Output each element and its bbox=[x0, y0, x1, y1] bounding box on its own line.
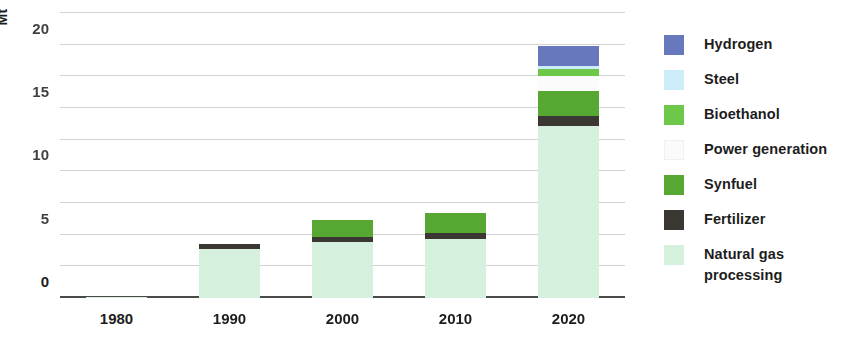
bar-segment-natural-gas-processing bbox=[86, 297, 147, 298]
legend-swatch-icon bbox=[664, 210, 684, 230]
bar-segment-power-generation bbox=[538, 76, 599, 91]
legend-label: Bioethanol bbox=[704, 104, 780, 125]
bar-segment-synfuel bbox=[425, 213, 486, 234]
bar-2000 bbox=[312, 220, 373, 298]
legend-label: Power generation bbox=[704, 139, 827, 160]
y-axis-tick-label: 10 bbox=[32, 146, 49, 163]
bar-2020 bbox=[538, 46, 599, 298]
bar-1980 bbox=[86, 297, 147, 298]
y-axis-tick-label: 20 bbox=[32, 19, 49, 36]
y-axis-tick-label: 5 bbox=[41, 209, 49, 226]
legend-label: Steel bbox=[704, 69, 739, 90]
bar-segment-natural-gas-processing bbox=[538, 126, 599, 298]
legend-item[interactable]: Fertilizer bbox=[664, 209, 854, 230]
bar-segment-bioethanol bbox=[538, 69, 599, 77]
legend-swatch-icon bbox=[664, 70, 684, 90]
legend-item[interactable]: Natural gas processing bbox=[664, 244, 854, 286]
y-axis-title: Mt bbox=[0, 6, 22, 46]
bar-segment-fertilizer bbox=[312, 237, 373, 243]
y-axis-tick-label: 0 bbox=[41, 273, 49, 290]
bar-segment-fertilizer bbox=[199, 244, 260, 248]
gridline: 40 bbox=[60, 44, 625, 45]
y-axis-tick-label: 15 bbox=[32, 83, 49, 100]
bar-2010 bbox=[425, 213, 486, 299]
legend-label: Synfuel bbox=[704, 174, 757, 195]
bar-segment-fertilizer bbox=[538, 116, 599, 126]
legend-swatch-icon bbox=[664, 105, 684, 125]
chart-legend: HydrogenSteelBioethanolPower generationS… bbox=[664, 34, 854, 300]
bar-segment-fertilizer bbox=[425, 233, 486, 239]
legend-item[interactable]: Bioethanol bbox=[664, 104, 854, 125]
legend-swatch-icon bbox=[664, 35, 684, 55]
legend-label: Fertilizer bbox=[704, 209, 765, 230]
legend-item[interactable]: Power generation bbox=[664, 139, 854, 160]
gridline: 45 bbox=[60, 12, 625, 13]
bar-segment-steel bbox=[538, 66, 599, 69]
bar-1990 bbox=[199, 244, 260, 298]
bar-segment-synfuel bbox=[312, 220, 373, 236]
bar-segment-synfuel bbox=[538, 91, 599, 116]
legend-label: Natural gas processing bbox=[704, 244, 854, 286]
legend-label: Hydrogen bbox=[704, 34, 772, 55]
x-axis-tick-label: 1990 bbox=[213, 310, 246, 327]
chart-root: Mt 0510152025303540451980199020002010202… bbox=[0, 0, 854, 344]
x-axis-tick-label: 2000 bbox=[326, 310, 359, 327]
x-axis-tick-label: 2010 bbox=[439, 310, 472, 327]
bar-segment-natural-gas-processing bbox=[199, 249, 260, 298]
plot-area: 05101520253035404519801990200020102020 bbox=[60, 13, 625, 298]
y-axis-title-text: Mt bbox=[0, 0, 22, 37]
legend-item[interactable]: Hydrogen bbox=[664, 34, 854, 55]
legend-swatch-icon bbox=[664, 140, 684, 160]
x-axis-tick-label: 1980 bbox=[100, 310, 133, 327]
bar-segment-natural-gas-processing bbox=[425, 239, 486, 298]
bar-segment-natural-gas-processing bbox=[312, 242, 373, 298]
x-axis-tick-label: 2020 bbox=[552, 310, 585, 327]
legend-swatch-icon bbox=[664, 245, 684, 265]
bar-segment-hydrogen bbox=[538, 46, 599, 66]
legend-swatch-icon bbox=[664, 175, 684, 195]
legend-item[interactable]: Steel bbox=[664, 69, 854, 90]
legend-item[interactable]: Synfuel bbox=[664, 174, 854, 195]
